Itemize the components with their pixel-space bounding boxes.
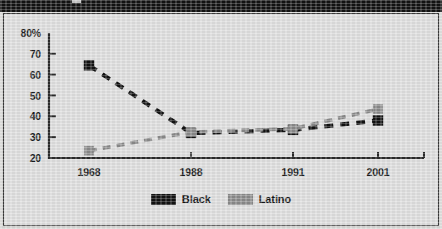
series-group [84, 60, 383, 155]
series-black [84, 60, 383, 138]
cropped-title-remnant [72, 0, 81, 3]
axis-group [49, 33, 424, 158]
series-line-black [89, 65, 378, 133]
legend-entry: Latino [228, 193, 291, 205]
data-point-marker [373, 104, 383, 114]
series-line-latino [89, 109, 378, 151]
legend-entry: Black [151, 193, 211, 205]
chart-legend: BlackLatino [0, 193, 442, 205]
chart-page: 80%706050403020 1968198819912001 BlackLa… [0, 0, 442, 229]
legend-swatch-icon [151, 194, 176, 205]
axis-lines [49, 33, 424, 158]
data-point-marker [373, 115, 383, 125]
data-point-marker [84, 60, 94, 70]
legend-label: Latino [259, 193, 291, 205]
series-latino [84, 104, 383, 155]
data-point-marker [288, 124, 298, 134]
data-point-marker [84, 146, 94, 156]
data-point-marker [186, 127, 196, 137]
legend-label: Black [182, 193, 211, 205]
legend-swatch-icon [228, 194, 253, 205]
header-bar [0, 0, 442, 12]
